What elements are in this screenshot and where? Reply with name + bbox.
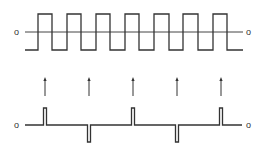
impulse-train [25,108,242,142]
impulse-zero-label-left: o [14,120,19,130]
waveform-diagram: o o o o [0,0,267,150]
up-arrow-icon [131,77,134,96]
impulse-train-section: o o [14,108,251,142]
arrows-group [43,77,222,96]
impulse-zero-label-right: o [246,120,251,130]
up-arrow-icon [87,77,90,96]
up-arrow-icon [175,77,178,96]
square-wave-zero-label-left: o [14,27,19,37]
square-wave-section: o o [14,14,251,50]
up-arrow-icon [219,77,222,96]
square-wave-zero-label-right: o [246,27,251,37]
up-arrow-icon [43,77,46,96]
